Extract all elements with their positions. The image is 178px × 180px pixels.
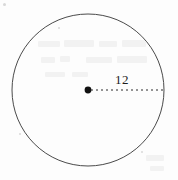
circle-diagram-figure: 12 [0,0,178,180]
radius-measure-label: 12 [115,73,129,86]
circle-diagram-canvas [0,0,178,180]
center-point-dot [85,87,92,94]
